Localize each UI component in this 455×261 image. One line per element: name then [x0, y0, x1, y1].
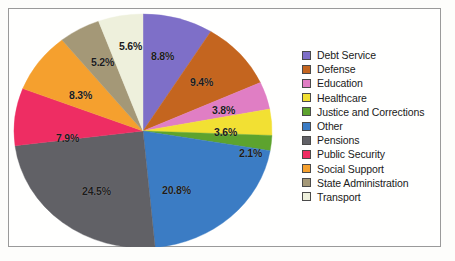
- legend-color-swatch: [302, 192, 311, 201]
- legend-item-label: Justice and Corrections: [317, 106, 424, 118]
- pie-slice-percentage-label: 3.8%: [212, 104, 235, 116]
- legend-item[interactable]: Social Support: [302, 162, 447, 176]
- pie-slice-percentage-label: 8.3%: [69, 89, 92, 101]
- legend-color-swatch: [302, 122, 311, 131]
- legend-item[interactable]: State Administration: [302, 176, 447, 190]
- chart-legend: Debt ServiceDefenseEducationHealthcareJu…: [302, 48, 447, 204]
- legend-item[interactable]: Transport: [302, 190, 447, 204]
- pie-slice-percentage-label: 3.6%: [214, 126, 237, 138]
- legend-color-swatch: [302, 178, 311, 187]
- legend-color-swatch: [302, 150, 311, 159]
- pie-slice-percentage-label: 20.8%: [162, 184, 191, 196]
- pie-chart-figure: 8.8%9.4%3.8%3.6%2.1%20.8%24.5%7.9%8.3%5.…: [0, 0, 455, 261]
- legend-item-label: Social Support: [317, 163, 384, 175]
- pie-slice-percentage-label: 7.9%: [56, 132, 79, 144]
- legend-item-label: Healthcare: [317, 92, 367, 104]
- legend-color-swatch: [302, 51, 311, 60]
- legend-item[interactable]: Public Security: [302, 147, 447, 161]
- legend-item[interactable]: Education: [302, 76, 447, 90]
- legend-color-swatch: [302, 79, 311, 88]
- pie-slice-percentage-label: 5.6%: [119, 40, 142, 52]
- legend-item-label: Education: [317, 77, 363, 89]
- legend-item-label: Defense: [317, 63, 355, 75]
- legend-item-label: State Administration: [317, 177, 408, 189]
- legend-color-swatch: [302, 164, 311, 173]
- legend-color-swatch: [302, 93, 311, 102]
- pie-slice-percentage-label: 9.4%: [190, 76, 213, 88]
- pie-chart-plot-area: 8.8%9.4%3.8%3.6%2.1%20.8%24.5%7.9%8.3%5.…: [9, 9, 289, 247]
- legend-item[interactable]: Justice and Corrections: [302, 105, 447, 119]
- legend-item-label: Other: [317, 120, 343, 132]
- legend-item[interactable]: Defense: [302, 62, 447, 76]
- pie-svg: [9, 9, 289, 247]
- pie-slice-percentage-label: 24.5%: [82, 185, 111, 197]
- legend-item-label: Pensions: [317, 134, 359, 146]
- legend-color-swatch: [302, 65, 311, 74]
- pie-slice-percentage-label: 5.2%: [91, 56, 114, 68]
- legend-color-swatch: [302, 136, 311, 145]
- legend-item[interactable]: Other: [302, 119, 447, 133]
- pie-slice-percentage-label: 2.1%: [239, 147, 262, 159]
- pie-slice-percentage-label: 8.8%: [151, 50, 174, 62]
- legend-item[interactable]: Debt Service: [302, 48, 447, 62]
- legend-item-label: Public Security: [317, 148, 385, 160]
- legend-color-swatch: [302, 107, 311, 116]
- legend-item[interactable]: Healthcare: [302, 91, 447, 105]
- legend-item-label: Debt Service: [317, 49, 376, 61]
- legend-item-label: Transport: [317, 191, 361, 203]
- legend-item[interactable]: Pensions: [302, 133, 447, 147]
